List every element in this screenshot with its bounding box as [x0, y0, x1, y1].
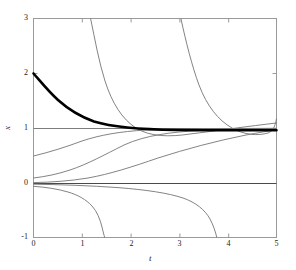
x-tick-label-5: 5 [269, 240, 284, 248]
y-tick-label-3: 3 [14, 14, 28, 22]
plot-canvas [0, 0, 296, 270]
x-tick-label-1: 1 [75, 240, 90, 248]
y-tick-label-2: 2 [14, 69, 28, 77]
y-tick-label-1: 1 [14, 124, 28, 132]
x-tick-label-0: 0 [26, 240, 41, 248]
x-tick-label-3: 3 [172, 240, 187, 248]
y-axis-title: x [2, 121, 12, 135]
chart-figure: 3 2 1 0 -1 0 1 2 3 4 5 t x [0, 0, 296, 270]
x-axis-title: t [149, 253, 152, 263]
x-tick-label-2: 2 [124, 240, 139, 248]
x-tick-label-4: 4 [221, 240, 236, 248]
y-tick-label-0: 0 [14, 179, 28, 187]
